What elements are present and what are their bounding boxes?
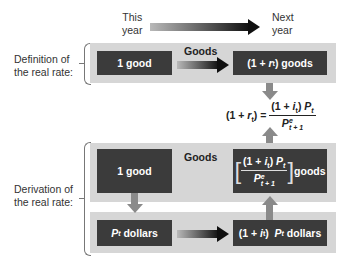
derivation-goods-suffix: goods [294, 165, 326, 177]
derivation-one-good-box: 1 good [97, 149, 172, 193]
definition-result-suffix: ) goods [275, 57, 313, 69]
formula-lhs: (1 + rt) = [226, 109, 266, 123]
derivation-label-line2: the real rate: [14, 196, 73, 209]
arrow-up-icon [262, 127, 278, 136]
derivation-numerator: (1 + it) Pt [241, 155, 287, 171]
this-year-label: This year [122, 11, 142, 37]
derivation-brace-tip [79, 198, 85, 199]
definition-arrow-shaft [177, 61, 219, 69]
arrow-right-icon [217, 226, 229, 242]
definition-label-line1: Definition of [14, 53, 73, 66]
up-arrow-shaft [266, 136, 273, 143]
timeline-arrow-shaft [150, 23, 250, 31]
derivation-goods-result-box: [ (1 + it) Pt Pet + 1 ] goods [233, 149, 327, 193]
derivation-dollars-result-box: (1 + it) Pt dollars [233, 220, 327, 246]
arrow-right-icon [248, 19, 260, 35]
derivation-den-price: P [254, 172, 261, 184]
derivation-den-sub: t + 1 [261, 180, 275, 187]
formula-denominator: Pet + 1 [282, 116, 303, 131]
derivation-num-prefix: (1 + [243, 155, 264, 167]
derivation-dollars-price: P [275, 227, 282, 239]
this-year-line1: This [122, 11, 142, 24]
up-arrow-shaft-2 [266, 205, 273, 220]
derivation-fraction: (1 + it) Pt Pet + 1 [241, 155, 287, 186]
derivation-label-line1: Derivation of [14, 183, 73, 196]
derivation-denominator: Pet + 1 [254, 171, 275, 186]
definition-one-good-box: 1 good [97, 51, 172, 75]
right-bracket-icon: ] [287, 159, 294, 183]
formula-lhs-prefix: (1 + [226, 109, 247, 121]
formula-den-sup: e [289, 117, 303, 124]
derivation-label: Derivation of the real rate: [14, 183, 73, 209]
arrow-down-icon [262, 91, 278, 100]
next-year-label: Next year [272, 11, 294, 37]
left-bracket-icon: [ [234, 159, 241, 183]
derivation-pt-price: P [111, 227, 118, 239]
formula-lhs-suffix: ) = [254, 109, 267, 121]
formula-den-price: P [282, 117, 289, 129]
derivation-dollars-suffix: dollars [284, 227, 321, 239]
definition-brace-tip [79, 63, 85, 64]
definition-one-good-text: 1 good [117, 57, 151, 69]
derivation-dollars-arrow-shaft [177, 230, 219, 238]
down-arrow-shaft-2 [131, 193, 138, 204]
derivation-dollars-mid: ) [265, 227, 274, 239]
derivation-one-good-text: 1 good [117, 165, 151, 177]
arrow-right-icon [217, 57, 229, 73]
definition-result-box: (1 + rt) goods [233, 51, 327, 75]
definition-label: Definition of the real rate: [14, 53, 73, 79]
formula-num-prefix: (1 + [271, 100, 292, 112]
this-year-line2: year [122, 24, 142, 37]
formula-numerator: (1 + it) Pt [269, 100, 315, 116]
definition-goods-label: Goods [184, 45, 217, 57]
formula-num-price-sub: t [311, 107, 313, 114]
arrow-up-icon [262, 196, 278, 205]
derivation-dollars-prefix: (1 + [239, 227, 260, 239]
arrow-down-icon [127, 204, 143, 213]
derivation-goods-label: Goods [184, 151, 217, 163]
derivation-num-price-sub: t [283, 162, 285, 169]
definition-result-prefix: (1 + [247, 57, 265, 69]
derivation-pt-dollars-box: Pt dollars [97, 220, 172, 246]
formula-den-sub: t + 1 [289, 124, 303, 131]
next-year-line1: Next [272, 11, 294, 24]
definition-label-line2: the real rate: [14, 66, 73, 79]
derivation-den-sup: e [261, 173, 275, 180]
down-arrow-shaft [266, 83, 273, 91]
derivation-pt-suffix: dollars [121, 227, 158, 239]
next-year-line2: year [272, 24, 294, 37]
